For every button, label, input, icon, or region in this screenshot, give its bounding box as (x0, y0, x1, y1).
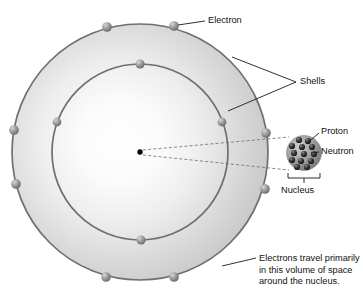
proton-particle (296, 137, 302, 143)
electron-sphere (102, 22, 112, 32)
caption-line-1: Electrons travel primarily (259, 253, 360, 263)
electron-sphere (260, 184, 270, 194)
electron-label: Electron (208, 15, 242, 25)
neutron-label: Neutron (321, 146, 354, 156)
atom-diagram-canvas: Electron Shells Proton Neutron Nucleus E… (0, 0, 363, 307)
neutron-particle (301, 151, 307, 157)
proton-particle (299, 144, 305, 150)
proton-particle (291, 150, 297, 156)
electron-leader-line (178, 21, 205, 25)
electron-sphere (53, 118, 62, 127)
neutron-particle (289, 143, 295, 149)
shells-label: Shells (300, 76, 325, 86)
caption-line-3: around the nucleus. (259, 276, 340, 286)
neutron-particle (311, 151, 317, 157)
electron-sphere (101, 272, 111, 282)
caption-leader-line (222, 258, 256, 266)
electron-sphere (218, 118, 227, 127)
caption-line-2: in this volume of space (259, 265, 352, 275)
proton-particle (309, 144, 315, 150)
electron-sphere (169, 21, 179, 31)
neutron-particle (298, 158, 304, 164)
neutron-particle (304, 164, 310, 170)
proton-particle (308, 158, 314, 164)
nucleus-center-dot (137, 149, 142, 154)
electron-sphere (11, 179, 21, 189)
nucleus-label: Nucleus (281, 185, 315, 195)
magnified-nucleus-cluster (287, 136, 322, 171)
caption-text: Electrons travel primarily in this volum… (259, 253, 362, 286)
proton-particle (294, 164, 300, 170)
nucleus-bracket (288, 173, 320, 178)
atom-diagram-figure: Electron Shells Proton Neutron Nucleus E… (0, 0, 363, 307)
neutron-particle (289, 157, 295, 163)
electron-sphere (136, 235, 145, 244)
proton-label: Proton (321, 126, 348, 136)
electron-sphere (135, 59, 144, 68)
electron-sphere (9, 125, 19, 135)
electron-sphere (169, 272, 179, 282)
electron-sphere (261, 128, 271, 138)
